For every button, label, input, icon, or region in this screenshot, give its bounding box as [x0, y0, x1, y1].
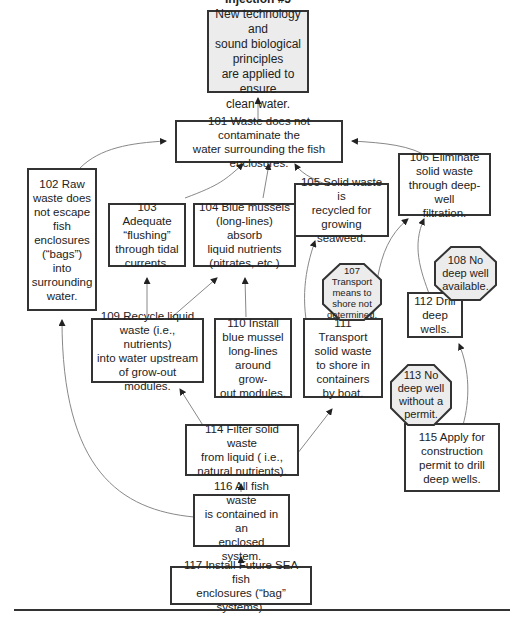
node-106-text: 106 Eliminate solid waste through deep-w… — [404, 150, 485, 220]
node-105: 105 Solid waste is recycled for growing … — [294, 183, 389, 237]
obstacle-107-text: 107 Transport means to shore not determi… — [327, 265, 377, 320]
obstacle-108-text: 108 No deep well available. — [442, 254, 488, 293]
node-116: 116 All fish waste is contained in an en… — [193, 494, 290, 547]
node-106: 106 Eliminate solid waste through deep-w… — [398, 153, 491, 216]
injection-text: New technology and sound biological prin… — [213, 7, 303, 112]
node-111: 111 Transport solid waste to shore in co… — [303, 318, 383, 398]
node-101: 101 Waste does not contaminate the water… — [175, 120, 343, 163]
node-114: 114 Filter solid waste from liquid ( i.e… — [185, 424, 299, 476]
node-115-text: 115 Apply for construction permit to dri… — [419, 430, 485, 486]
node-105-text: 105 Solid waste is recycled for growing … — [300, 175, 383, 245]
node-101-text: 101 Waste does not contaminate the water… — [181, 114, 337, 170]
node-102: 102 Raw waste does not escape fish enclo… — [27, 168, 97, 311]
bottom-divider — [14, 609, 510, 611]
node-116-text: 116 All fish waste is contained in an en… — [199, 479, 284, 563]
obstacle-113: 113 No deep well without a permit. — [390, 364, 452, 426]
node-111-text: 111 Transport solid waste to shore in co… — [309, 316, 377, 400]
obstacle-108: 108 No deep well available. — [434, 246, 497, 301]
node-103-text: 103 Adequate “flushing” through tidal cu… — [114, 200, 180, 270]
node-109: 109 Recycle liquid waste (i.e., nutrient… — [91, 318, 204, 383]
node-117: 117 Install Future SEA fish enclosures (… — [170, 566, 312, 605]
node-102-text: 102 Raw waste does not escape fish enclo… — [32, 177, 93, 303]
node-110-text: 110 Install blue mussel long-lines aroun… — [220, 316, 286, 400]
node-103: 103 Adequate “flushing” through tidal cu… — [108, 203, 186, 267]
node-114-text: 114 Filter solid waste from liquid ( i.e… — [191, 422, 293, 478]
node-109-text: 109 Recycle liquid waste (i.e., nutrient… — [97, 309, 198, 393]
obstacle-113-text: 113 No deep well without a permit. — [398, 369, 444, 421]
node-110: 110 Install blue mussel long-lines aroun… — [214, 318, 292, 398]
node-104: 104 Blue mussels (long-lines) absorb liq… — [193, 203, 296, 267]
node-117-text: 117 Install Future SEA fish enclosures (… — [176, 558, 306, 614]
node-104-text: 104 Blue mussels (long-lines) absorb liq… — [199, 200, 290, 270]
node-115: 115 Apply for construction permit to dri… — [404, 423, 500, 492]
injection-box: Injection #5 New technology and sound bi… — [207, 10, 309, 93]
obstacle-107: 107 Transport means to shore not determi… — [322, 263, 382, 321]
